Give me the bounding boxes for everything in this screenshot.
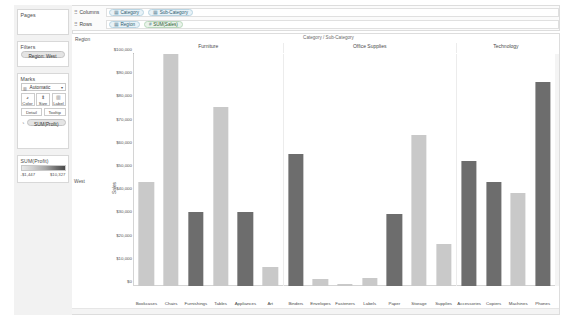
columns-pill-subcategory-text: Sub-Category [160,10,188,15]
x-axis-tick-label: Supplies [435,301,452,306]
bar-mark[interactable] [288,154,303,286]
y-axis-tick-label: $0 [127,279,132,284]
pages-title: Pages [18,10,68,18]
marks-color-button[interactable]: ◕ Color [21,93,35,106]
filter-pill-container: Region: West [18,50,68,61]
vertical-scrollbar[interactable] [555,54,559,286]
marks-color-label: Color [22,101,34,106]
bar-mark[interactable] [511,193,526,286]
rows-pill-region[interactable]: ▦Region [109,21,140,28]
bar-mark[interactable] [263,267,278,286]
dimension-icon: ▦ [153,10,158,15]
columns-shelf[interactable]: ⠿Columns ▦Category ▦Sub-Category [72,6,559,18]
dimension-icon: ▦ [114,22,119,27]
x-axis-tick-label: Fasteners [335,301,355,306]
y-axis-tick-label: $20,000 [116,232,132,237]
pages-shelf-panel[interactable]: Pages [17,9,69,35]
legend-value-row: -$1,447 $10,327 [21,172,66,177]
x-axis-tick-label: Tables [214,301,227,306]
shelf-area: ⠿Columns ▦Category ▦Sub-Category ⠿Rows ▦… [72,5,560,31]
rows-pill-sales[interactable]: #SUM(Sales) [144,21,183,28]
marks-detail-button[interactable]: Detail [21,108,43,116]
rows-shelf-label: ⠿Rows [74,21,102,27]
bar-mark[interactable] [213,107,228,286]
color-swatch-icon: ◔ [21,120,26,126]
x-axis-tick-label: Phones [535,301,550,306]
bar-mark[interactable] [411,135,426,286]
marks-tooltip-button[interactable]: Tooltip [44,108,66,116]
marks-profit-pill[interactable]: SUM(Profit) [27,119,66,126]
label-icon: ▥ [53,94,65,101]
x-axis-tick-label: Labels [363,301,376,306]
category-header: Furniture [134,43,283,53]
legend-title: SUM(Profit) [18,156,68,164]
filters-shelf-panel[interactable]: Filters Region: West [17,41,69,67]
bar-mark[interactable] [486,182,501,286]
legend-gradient-bar[interactable] [21,165,66,171]
y-axis-tick-label: $10,000 [116,255,132,260]
bar-mark[interactable] [436,244,451,286]
columns-drop-zone[interactable]: ▦Category ▦Sub-Category [106,8,559,17]
marks-tooltip-label: Tooltip [45,109,65,116]
marks-detail-label: Detail [22,109,42,116]
bar-mark[interactable] [238,212,253,286]
bar-mark[interactable] [462,161,477,286]
bar-slot: Fasteners [333,54,358,286]
row-field-header: Region [72,34,98,54]
grip-icon: ⠿ [74,10,78,15]
y-axis-tick-label: $100,000 [114,47,132,52]
bar-mark[interactable] [535,82,550,286]
grip-icon: ⠿ [74,22,78,27]
bar-mark[interactable] [139,182,154,286]
bar-slot: Accessories [457,54,482,286]
bar-slot: Storage [407,54,432,286]
rows-shelf[interactable]: ⠿Rows ▦Region #SUM(Sales) [72,18,559,30]
bar-mark[interactable] [188,212,203,286]
marks-size-label: Size [37,101,49,106]
y-axis: $0$10,000$20,000$30,000$40,000$50,000$60… [116,54,134,286]
y-axis-tick-label: $70,000 [116,116,132,121]
category-group: AccessoriesCopiersMachinesPhones [456,54,555,286]
dimension-icon: ▦ [114,10,119,15]
size-icon: ⬍ [37,94,49,101]
x-axis-tick-label: Storage [411,301,426,306]
category-group: BindersEnvelopesFastenersLabelsPaperStor… [283,54,456,286]
y-axis-tick-label: $50,000 [116,163,132,168]
bar-mark[interactable] [337,284,352,286]
columns-pill-subcategory[interactable]: ▦Sub-Category [148,9,193,16]
legend-max-value: $10,327 [50,172,66,177]
bar-mark[interactable] [387,214,402,286]
bar-slot: Machines [506,54,531,286]
x-axis-tick-label: Bookcases [136,301,157,306]
legend-min-value: -$1,447 [21,172,36,177]
y-axis-tick-label: $30,000 [116,209,132,214]
marks-type-dropdown[interactable]: ▥ Automatic ▾ [21,83,66,91]
filter-pill-region[interactable]: Region: West [21,51,65,58]
x-axis-tick-label: Binders [288,301,303,306]
color-icon: ◕ [22,94,34,101]
bar-mark[interactable] [362,278,377,286]
bar-slot: Art [258,54,283,286]
view-canvas: Region Category / Sub-Category Furniture… [72,33,560,315]
rows-drop-zone[interactable]: ▦Region #SUM(Sales) [106,20,559,29]
y-axis-tick-label: $40,000 [116,186,132,191]
left-sidebar: Pages Filters Region: West Marks ▥ Autom… [14,5,73,315]
marks-button-row-2: Detail Tooltip [21,108,66,116]
x-axis-tick-label: Copiers [486,301,501,306]
bar-slot: Labels [357,54,382,286]
category-group: BookcasesChairsFurnishingsTablesApplianc… [134,54,283,286]
bar-slot: Binders [284,54,309,286]
bar-slot: Tables [208,54,233,286]
category-header: Technology [456,43,555,53]
bar-mark[interactable] [313,279,328,286]
bar-mark[interactable] [163,54,178,286]
marks-title: Marks [18,74,68,82]
columns-pill-category[interactable]: ▦Category [109,9,144,16]
horizontal-scrollbar[interactable] [72,308,559,314]
marks-size-button[interactable]: ⬍ Size [36,93,50,106]
color-legend-panel: SUM(Profit) -$1,447 $10,327 [17,155,69,183]
x-axis-tick-label: Chairs [165,301,178,306]
plot-region: BookcasesChairsFurnishingsTablesApplianc… [134,54,555,286]
marks-type-label: Automatic [30,85,51,90]
marks-label-button[interactable]: ▥ Label [52,93,66,106]
